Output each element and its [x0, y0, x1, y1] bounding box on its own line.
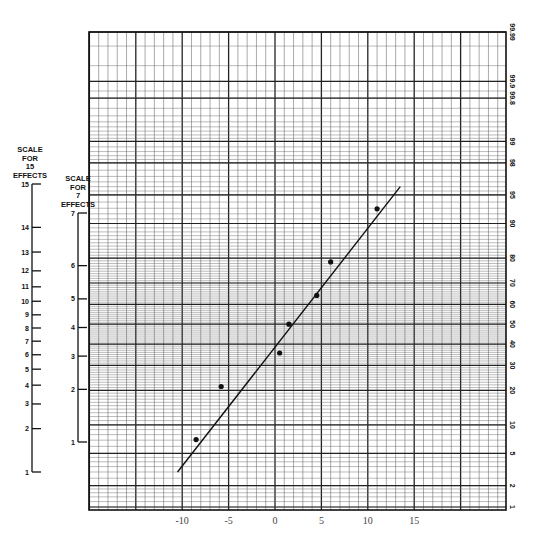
- scale-tick-label: 1: [25, 469, 29, 476]
- data-point: [314, 293, 319, 298]
- right-axis-tick-label: 90: [509, 220, 516, 228]
- right-axis-tick-label: 95: [509, 191, 516, 199]
- right-axis-tick-label: 98: [509, 159, 516, 167]
- x-tick-label: 5: [319, 515, 324, 526]
- x-tick-label: -5: [224, 515, 232, 526]
- scale-tick-label: 5: [71, 295, 75, 302]
- right-axis-tick-label: 30: [509, 362, 516, 370]
- probability-grid: [89, 32, 506, 510]
- scale-tick-label: 1: [71, 439, 75, 446]
- x-axis: -10-5051015: [176, 515, 420, 526]
- scale-tick-label: 3: [71, 353, 75, 360]
- scale-tick-label: 12: [21, 267, 29, 274]
- right-axis-tick-label: 40: [509, 340, 516, 348]
- right-axis-tick-label: 70: [509, 279, 516, 287]
- right-axis-tick-label: 5: [509, 452, 516, 456]
- right-axis-tick-label: 60: [509, 300, 516, 308]
- scale-tick-label: 7: [71, 210, 75, 217]
- data-point: [328, 259, 333, 264]
- fit-line: [178, 187, 401, 472]
- scale-tick-label: 6: [71, 262, 75, 269]
- data-point: [277, 350, 282, 355]
- right-axis-tick-label: 99.99: [509, 23, 516, 41]
- scale-tick-label: 2: [25, 425, 29, 432]
- right-axis-tick-label: 80: [509, 254, 516, 262]
- scale-tick-label: 8: [25, 325, 29, 332]
- data-point: [374, 206, 379, 211]
- right-axis-tick-label: 10: [509, 421, 516, 429]
- scale-tick-label: 3: [25, 400, 29, 407]
- right-probability-axis: 12510203040506070809095989999.899.999.99: [509, 23, 516, 509]
- x-tick-label: 15: [409, 515, 419, 526]
- right-axis-tick-label: 99: [509, 138, 516, 146]
- scale-tick-label: 2: [71, 386, 75, 393]
- scale-for-15-effects: SCALEFOR15EFFECTS123456789101112131415: [13, 145, 47, 476]
- x-tick-label: 10: [363, 515, 373, 526]
- right-axis-tick-label: 2: [509, 484, 516, 488]
- right-axis-tick-label: 50: [509, 320, 516, 328]
- right-axis-tick-label: 99.8: [509, 91, 516, 105]
- right-axis-tick-label: 1: [509, 505, 516, 509]
- right-axis-tick-label: 99.9: [509, 75, 516, 89]
- data-point: [219, 384, 224, 389]
- data-point: [286, 322, 291, 327]
- scale-tick-label: 14: [21, 224, 29, 231]
- scale-tick-label: 4: [71, 324, 75, 331]
- scale-tick-label: 5: [25, 366, 29, 373]
- scale-tick-label: 10: [21, 298, 29, 305]
- scale-tick-label: 9: [25, 311, 29, 318]
- scale-tick-label: 11: [22, 283, 30, 290]
- x-tick-label: -10: [176, 515, 189, 526]
- right-axis-tick-label: 20: [509, 386, 516, 394]
- data-point: [194, 437, 199, 442]
- scale-tick-label: 7: [25, 338, 29, 345]
- x-tick-label: 0: [273, 515, 278, 526]
- normal-probability-chart: 12510203040506070809095989999.899.999.99…: [0, 0, 538, 540]
- scale-title: EFFECTS: [61, 200, 95, 209]
- scale-title: EFFECTS: [13, 171, 47, 180]
- scale-tick-label: 6: [25, 351, 29, 358]
- scale-tick-label: 15: [21, 181, 29, 188]
- scale-tick-label: 4: [25, 382, 29, 389]
- scale-tick-label: 13: [21, 249, 29, 256]
